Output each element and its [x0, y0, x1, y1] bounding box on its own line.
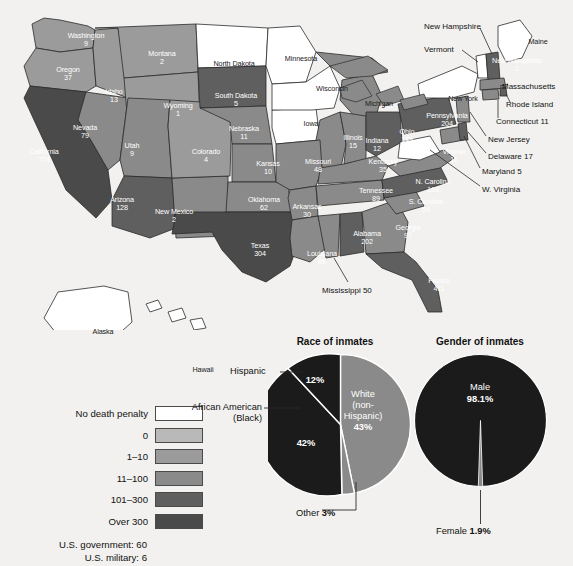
state-shape-utah	[120, 98, 172, 178]
legend-swatch	[155, 492, 203, 507]
legend-label: 101–300	[111, 494, 148, 505]
callout-new-jersey: New Jersey	[488, 135, 530, 144]
state-shape-oregon	[24, 48, 96, 92]
state-shape-arizona	[112, 176, 176, 238]
state-shape-tennessee	[316, 180, 384, 206]
callout-connecticut: Connecticut 11	[496, 117, 549, 126]
us-map	[0, 0, 573, 330]
state-shape-delaware	[458, 122, 468, 140]
gender-male-inside-label: Male 98.1%	[450, 381, 510, 405]
callout-vermont: Vermont	[424, 45, 454, 54]
gender-chart-title: Gender of inmates	[400, 336, 560, 347]
state-shape-iowa	[272, 108, 320, 144]
legend-swatch	[155, 449, 203, 464]
state-shape-newjersey	[456, 96, 470, 122]
gender-leader-line	[412, 470, 572, 540]
callout-massachusetts: Massachusetts	[502, 82, 555, 91]
legend-row: 11–100	[8, 469, 203, 488]
legend-row: 1–10	[8, 447, 203, 466]
state-shape-minnesota	[266, 26, 316, 84]
gender-male-pct: 98.1%	[467, 394, 493, 404]
callout-delaware: Delaware 17	[488, 152, 533, 161]
legend-label: Over 300	[109, 516, 148, 527]
state-shape-northdakota	[196, 24, 268, 68]
state-shape-ohio	[366, 112, 402, 156]
state-shape-newhampshire	[486, 52, 500, 80]
infographic-root: Washington9Oregon37Idaho13Montana2Wyomin…	[0, 0, 573, 566]
callout-rhode-island: Rhode Island	[506, 100, 553, 109]
state-shape-missouri	[276, 140, 322, 190]
map-legend: No death penalty01–1011–100101–300Over 3…	[8, 404, 203, 564]
callout-mississippi: Mississippi 50	[322, 286, 372, 295]
legend-swatch	[155, 428, 203, 443]
legend-footnotes: U.S. government: 60 U.S. military: 6	[8, 538, 203, 564]
legend-label: No death penalty	[75, 408, 148, 419]
state-shape-washington	[32, 18, 95, 52]
state-shape-alaska	[44, 286, 132, 330]
legend-label: 1–10	[127, 451, 148, 462]
legend-label: 11–100	[117, 473, 148, 484]
legend-footnote-military: U.S. military: 6	[8, 551, 147, 564]
legend-footnote-government: U.S. government: 60	[8, 538, 147, 551]
legend-row: Over 300	[8, 512, 203, 531]
callout-maryland: Maryland 5	[482, 167, 522, 176]
state-shape-florida	[366, 252, 442, 312]
callout-new-hampshire: New Hampshire	[424, 22, 481, 31]
legend-label: 0	[143, 430, 148, 441]
state-shape-newyork	[418, 66, 478, 98]
state-shape-arkansas	[288, 186, 318, 220]
legend-swatch	[155, 514, 203, 529]
hawaii-islands	[146, 300, 222, 330]
callout-w-virginia: W. Virginia	[482, 185, 520, 194]
gender-male-label: Male	[470, 382, 490, 392]
state-shape-alabama	[340, 212, 364, 256]
state-shape-connecticut	[482, 89, 499, 100]
race-leader-lines	[200, 352, 420, 522]
legend-row: 0	[8, 426, 203, 445]
state-shape-maine	[498, 20, 532, 62]
legend-swatch	[155, 471, 203, 486]
state-shape-oklahoma	[226, 182, 292, 212]
state-shape-southdakota	[198, 66, 266, 108]
state-shape-texas	[172, 212, 300, 282]
state-shape-kansas	[232, 144, 276, 182]
legend-row: 101–300	[8, 490, 203, 509]
race-chart-title: Race of inmates	[255, 336, 415, 347]
